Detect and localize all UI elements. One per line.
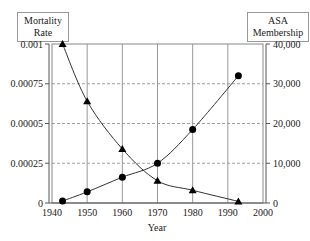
x-tick-label: 2000 <box>253 207 273 218</box>
right-tick-label: 20,000 <box>273 118 301 129</box>
data-series <box>59 40 243 205</box>
x-tick-label: 1950 <box>77 207 97 218</box>
x-axis-title: Year <box>148 222 167 233</box>
right-tick-label: 30,000 <box>273 78 301 89</box>
left-tick-label: 0.00025 <box>11 158 44 169</box>
x-tick-label: 1980 <box>183 207 203 218</box>
circle-marker <box>84 188 91 195</box>
right-tick-label: 40,000 <box>273 39 301 50</box>
circle-marker <box>59 198 66 205</box>
right-tick-label: 0 <box>273 198 278 209</box>
right-tick-label: 10,000 <box>273 158 301 169</box>
left-tick-label: 0.00075 <box>11 78 44 89</box>
circle-marker <box>119 174 126 181</box>
mortality-line <box>63 44 239 201</box>
left-tick-label: 0.001 <box>21 39 44 50</box>
circle-marker <box>189 126 196 133</box>
circle-marker <box>154 160 161 167</box>
membership-line <box>63 76 239 201</box>
left-tick-label: 0.00005 <box>11 118 44 129</box>
tick-labels: 00.000250.000050.000750.001010,00020,000… <box>11 39 301 219</box>
x-tick-label: 1990 <box>218 207 238 218</box>
triangle-marker <box>83 97 91 104</box>
circle-marker <box>235 72 242 79</box>
chart-canvas: 00.000250.000050.000750.001010,00020,000… <box>0 0 310 241</box>
x-tick-label: 1960 <box>112 207 132 218</box>
x-tick-label: 1940 <box>42 207 62 218</box>
x-tick-label: 1970 <box>148 207 168 218</box>
triangle-marker <box>154 177 162 184</box>
